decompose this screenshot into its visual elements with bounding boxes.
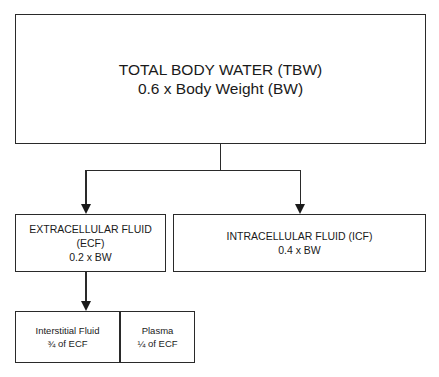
icf-drop-connector <box>300 170 302 206</box>
interstitial-cell: Interstitial Fluid ¾ of ECF <box>16 312 119 362</box>
ecf-drop-connector <box>85 170 87 206</box>
interstitial-fraction: ¾ of ECF <box>47 337 87 350</box>
split-connector <box>85 170 301 172</box>
subdivision-arrowhead-icon <box>81 301 91 311</box>
ecf-formula: 0.2 x BW <box>69 250 112 264</box>
icf-formula: 0.4 x BW <box>278 243 321 257</box>
tbw-box: TOTAL BODY WATER (TBW) 0.6 x Body Weight… <box>15 14 426 144</box>
ecf-box: EXTRACELLULAR FLUID (ECF) 0.2 x BW <box>15 214 166 272</box>
tbw-label: TOTAL BODY WATER (TBW) <box>119 60 323 79</box>
ecf-subdivision-connector <box>85 271 87 303</box>
icf-box: INTRACELLULAR FLUID (ICF) 0.4 x BW <box>173 214 426 272</box>
ecf-label-line1: EXTRACELLULAR FLUID <box>29 222 152 236</box>
tbw-stem-connector <box>220 143 222 171</box>
ecf-label-line2: (ECF) <box>77 236 105 250</box>
plasma-label: Plasma <box>142 324 174 337</box>
tbw-formula: 0.6 x Body Weight (BW) <box>138 79 303 98</box>
icf-label: INTRACELLULAR FLUID (ICF) <box>227 229 373 243</box>
plasma-fraction: ¼ of ECF <box>137 337 177 350</box>
ecf-arrowhead-icon <box>81 204 91 214</box>
icf-arrowhead-icon <box>295 204 305 214</box>
ecf-subdivision-box: Interstitial Fluid ¾ of ECF Plasma ¼ of … <box>15 311 195 363</box>
plasma-cell: Plasma ¼ of ECF <box>121 312 194 362</box>
interstitial-label: Interstitial Fluid <box>36 324 100 337</box>
